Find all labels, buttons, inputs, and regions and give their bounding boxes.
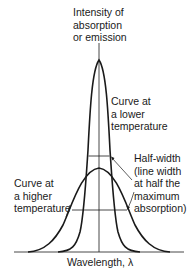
label-line: a higher (14, 190, 71, 203)
label-line: (line width (134, 165, 187, 178)
label-line: absorption) (134, 202, 187, 215)
label-line: temperature (111, 120, 168, 133)
y-axis-label-line: absorption (73, 19, 127, 32)
label-line: a lower (111, 108, 168, 121)
half-width-label: Half-width (line width at half the maxim… (134, 152, 187, 215)
y-axis-label: Intensity of absorption or emission (73, 6, 127, 44)
label-line: Curve at (14, 177, 71, 190)
label-line: temperature (14, 202, 71, 215)
label-line: maximum (134, 190, 187, 203)
half-width-pointer-upper (112, 158, 132, 180)
y-axis-label-line: Intensity of (73, 6, 127, 19)
higher-temperature-label: Curve at a higher temperature (14, 177, 71, 215)
label-line: Curve at (111, 95, 168, 108)
x-axis-label: Wavelength, λ (67, 256, 133, 269)
label-line: Half-width (134, 152, 187, 165)
label-line: at half the (134, 177, 187, 190)
lower-temperature-label: Curve at a lower temperature (111, 95, 168, 133)
y-axis-label-line: or emission (73, 31, 127, 44)
